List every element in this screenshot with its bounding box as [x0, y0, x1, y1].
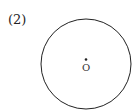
center-label: O	[82, 62, 90, 73]
circle-diagram	[0, 0, 140, 110]
center-point	[85, 58, 88, 61]
